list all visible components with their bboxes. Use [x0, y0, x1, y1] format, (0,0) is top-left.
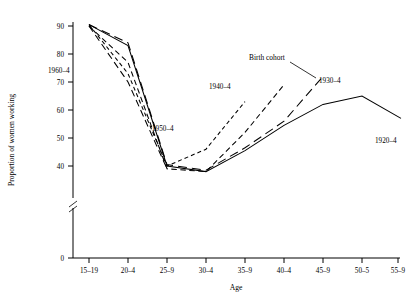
x-axis-title: Age — [230, 283, 243, 292]
series-label-1960-4: 1960–4 — [48, 67, 70, 75]
x-tick-label-35-9: 35–9 — [238, 267, 253, 275]
series-label-1920-4: 1920–4 — [375, 137, 397, 145]
y-tick-label-80: 80 — [57, 51, 65, 59]
line-chart: 90 80 70 60 50 40 0 Proportion of women … — [0, 0, 418, 297]
series-label-1950-4: 1950–4 — [152, 125, 174, 133]
y-tick-label-60: 60 — [57, 107, 65, 115]
series-line-1960-4 — [89, 26, 167, 169]
series-line-1920-4 — [89, 25, 401, 172]
series-group — [89, 25, 401, 172]
series-line-1940-4 — [89, 26, 284, 172]
y-tick-label-70: 70 — [57, 79, 65, 87]
annotation-leader-line — [290, 62, 316, 78]
y-tick-label-50: 50 — [57, 135, 65, 143]
x-tick-label-55-9: 55–9 — [391, 267, 406, 275]
chart-container: 90 80 70 60 50 40 0 Proportion of women … — [0, 0, 418, 297]
series-line-1930-4 — [89, 25, 323, 171]
y-tick-label-90: 90 — [57, 23, 65, 31]
x-tick-label-25-9: 25–9 — [160, 267, 175, 275]
x-tick-label-15-19: 15–19 — [80, 267, 98, 275]
x-tick-label-20-4: 20–4 — [121, 267, 136, 275]
series-line-1950-4 — [89, 25, 245, 166]
annotation-birth-cohort: Birth cohort — [249, 53, 286, 62]
y-tick-label-40: 40 — [57, 163, 65, 171]
series-label-1940-4: 1940–4 — [209, 83, 231, 91]
y-axis-title: Proportion of women working — [7, 94, 16, 186]
x-tick-label-45-9: 45–9 — [316, 267, 331, 275]
x-tick-label-40-4: 40–4 — [277, 267, 292, 275]
x-tick-label-30-4: 30–4 — [199, 267, 214, 275]
series-label-1930-4: 1930–4 — [319, 77, 341, 85]
y-tick-label-0: 0 — [60, 255, 64, 263]
x-tick-label-50-5: 50–5 — [355, 267, 370, 275]
